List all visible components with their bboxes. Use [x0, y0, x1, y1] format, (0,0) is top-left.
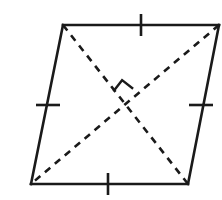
geometry-figure-canvas	[0, 0, 222, 200]
rhombus-diagram	[0, 0, 222, 200]
